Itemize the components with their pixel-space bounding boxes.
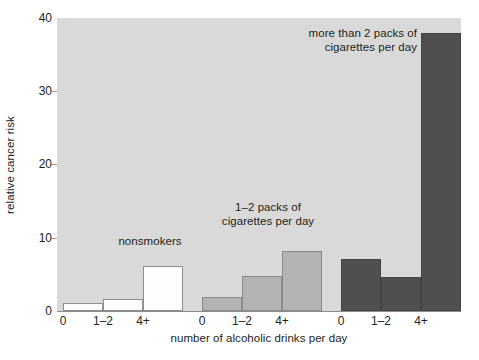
bar-onetwopacks-1-2 <box>242 276 282 311</box>
bar-onetwopacks-4plus <box>282 251 322 311</box>
y-tick-label-30: 30 <box>28 85 52 97</box>
annotation-more-than-two-packs: more than 2 packs of cigarettes per day <box>257 26 417 54</box>
y-tick-label-10: 10 <box>28 232 52 244</box>
bar-nonsmokers-4plus <box>143 266 183 311</box>
plot-area: nonsmokers 1–2 packs of cigarettes per d… <box>57 18 461 311</box>
y-axis-title: relative cancer risk <box>0 18 20 311</box>
bar-morethantwopacks-1-2 <box>381 277 421 311</box>
x-axis-title: number of alcoholic drinks per day <box>57 332 461 344</box>
x-tick-label-g3-1-2: 1–2 <box>364 314 398 328</box>
bar-onetwopacks-0 <box>202 297 242 311</box>
annotation-nonsmokers: nonsmokers <box>95 234 205 248</box>
bar-nonsmokers-1-2 <box>103 299 143 311</box>
annotation-one-two-packs: 1–2 packs of cigarettes per day <box>193 200 343 228</box>
x-tick-label-g2-1-2: 1–2 <box>225 314 259 328</box>
x-tick-label-g2-4plus: 4+ <box>265 314 299 328</box>
bar-morethantwopacks-4plus <box>421 33 461 311</box>
x-tick-label-g1-0: 0 <box>46 314 80 328</box>
x-tick-label-g3-4plus: 4+ <box>404 314 438 328</box>
y-tick-label-20: 20 <box>28 158 52 170</box>
bar-nonsmokers-0 <box>63 303 103 311</box>
chart-figure: relative cancer risk 40 30 20 10 0 nonsm… <box>0 0 479 360</box>
x-tick-label-g1-1-2: 1–2 <box>86 314 120 328</box>
x-axis-line <box>57 311 461 312</box>
bar-morethantwopacks-0 <box>341 259 381 311</box>
y-axis-ticks: 40 30 20 10 0 <box>22 0 52 360</box>
x-tick-label-g3-0: 0 <box>324 314 358 328</box>
y-axis-title-text: relative cancer risk <box>4 116 16 214</box>
x-tick-label-g1-4plus: 4+ <box>126 314 160 328</box>
y-tick-label-40: 40 <box>28 12 52 24</box>
x-tick-label-g2-0: 0 <box>185 314 219 328</box>
